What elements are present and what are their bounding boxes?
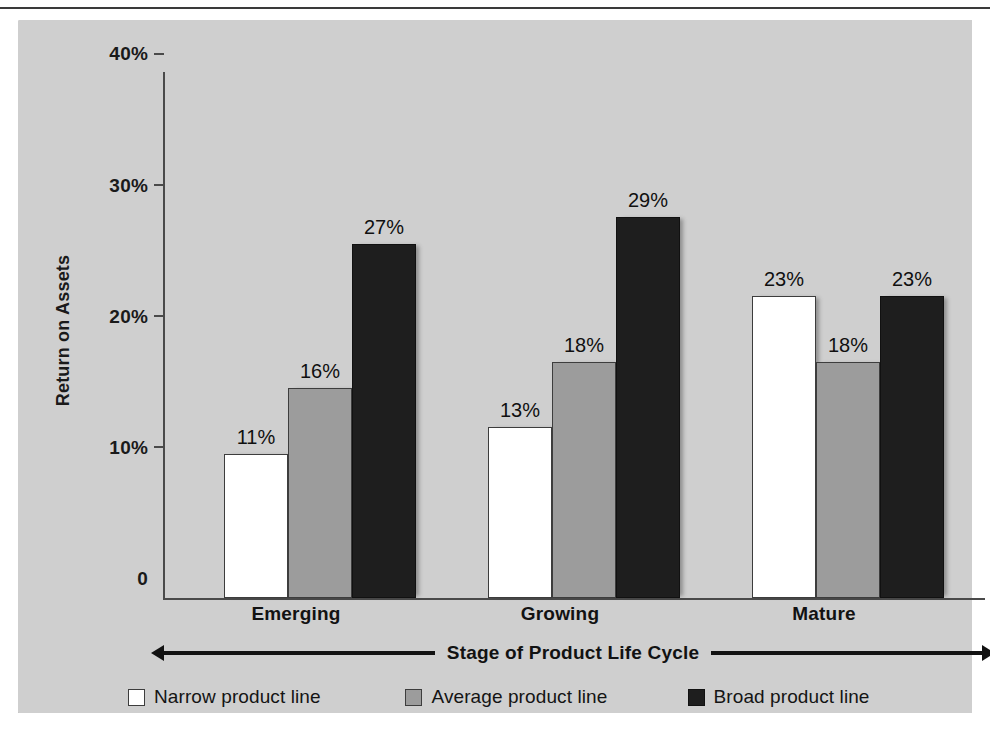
x-axis-line	[163, 598, 985, 600]
legend-item-broad[interactable]: Broad product line	[688, 686, 928, 708]
bar-rect	[616, 217, 680, 598]
y-tick-label-30: 30%	[62, 176, 148, 195]
y-tick-label-40: 40%	[62, 44, 148, 63]
y-tick-label-10: 10%	[62, 438, 148, 457]
legend-swatch-icon	[128, 689, 145, 706]
bar-emerging-broad[interactable]: 27%	[352, 244, 416, 598]
bar-mature-average[interactable]: 18%	[816, 362, 880, 598]
y-tick-label-20: 20%	[62, 307, 148, 326]
bar-value-label: 29%	[592, 189, 704, 212]
y-tick-40	[154, 53, 164, 55]
bar-emerging-average[interactable]: 16%	[288, 388, 352, 598]
bar-rect	[288, 388, 352, 598]
bar-growing-broad[interactable]: 29%	[616, 217, 680, 598]
chart-page: Return on Assets 40% 30% 20% 10% 0 11% 1…	[0, 0, 990, 735]
bar-rect	[488, 427, 552, 598]
bar-rect	[552, 362, 616, 598]
bar-rect	[816, 362, 880, 598]
legend-label: Broad product line	[714, 686, 870, 708]
bar-rect	[352, 244, 416, 598]
legend-swatch-icon	[405, 689, 422, 706]
x-axis-title: Stage of Product Life Cycle	[447, 642, 699, 664]
figure-panel: Return on Assets 40% 30% 20% 10% 0 11% 1…	[18, 20, 972, 713]
bar-emerging-narrow[interactable]: 11%	[224, 454, 288, 598]
arrow-left-icon	[163, 651, 435, 655]
category-label-growing: Growing	[430, 603, 690, 625]
bar-value-label: 23%	[856, 268, 968, 291]
bar-rect	[224, 454, 288, 598]
bar-mature-broad[interactable]: 23%	[880, 296, 944, 598]
category-label-mature: Mature	[694, 603, 954, 625]
y-tick-label-0: 0	[62, 569, 148, 588]
category-label-emerging: Emerging	[166, 603, 426, 625]
legend-item-narrow[interactable]: Narrow product line	[128, 686, 405, 708]
arrow-right-icon	[711, 651, 983, 655]
plot-area: 11% 16% 27% 13% 18% 29%	[163, 73, 983, 598]
bar-growing-narrow[interactable]: 13%	[488, 427, 552, 598]
bar-value-label: 27%	[328, 216, 440, 239]
legend-label: Narrow product line	[154, 686, 321, 708]
bar-rect	[880, 296, 944, 598]
y-axis-tick-labels: 40% 30% 20% 10% 0	[52, 20, 148, 713]
x-axis-caption: Stage of Product Life Cycle	[163, 638, 983, 668]
legend-swatch-icon	[688, 689, 705, 706]
chart-legend: Narrow product line Average product line…	[128, 680, 928, 714]
legend-item-average[interactable]: Average product line	[405, 686, 687, 708]
bar-value-label: 23%	[728, 268, 840, 291]
page-top-rule	[0, 7, 990, 9]
bar-growing-average[interactable]: 18%	[552, 362, 616, 598]
legend-label: Average product line	[431, 686, 607, 708]
